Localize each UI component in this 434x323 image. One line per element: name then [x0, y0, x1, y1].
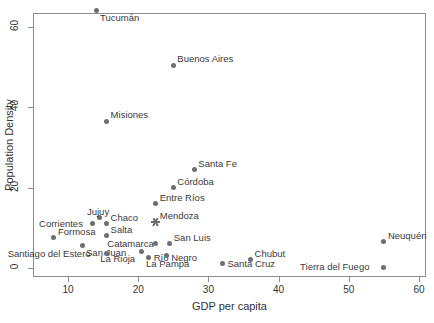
scatter-plot-figure: Population Density GDP per capita 020406… [0, 0, 434, 323]
x-tick-label: 30 [196, 284, 220, 295]
data-point-label: Córdoba [177, 177, 213, 187]
data-point-label: Santa Fe [198, 159, 237, 169]
data-point-label: Chaco [111, 213, 138, 223]
x-tick-mark [349, 277, 350, 282]
y-tick-mark [28, 268, 33, 269]
data-point-label: Misiones [111, 110, 149, 120]
x-tick-mark [279, 277, 280, 282]
data-point-marker [192, 167, 197, 172]
data-point-label: Tierra del Fuego [300, 262, 369, 272]
data-point-label: Jujuy [87, 207, 109, 217]
data-point-label: Entre Ríos [160, 193, 205, 203]
data-point-marker [171, 185, 176, 190]
x-tick-label: 60 [407, 284, 431, 295]
y-tick-mark [28, 188, 33, 189]
data-point-label: Tucumán [100, 13, 139, 23]
y-tick-label: 20 [9, 176, 20, 196]
data-point-label: San Luis [174, 233, 211, 243]
x-tick-mark [208, 277, 209, 282]
data-point-label: Santiago del Estero [8, 249, 91, 259]
data-point-marker [171, 63, 176, 68]
data-point-marker [104, 119, 109, 124]
data-point-label: Buenos Aires [177, 54, 233, 64]
y-tick-label: 60 [9, 16, 20, 36]
x-tick-label: 40 [267, 284, 291, 295]
x-tick-label: 10 [56, 284, 80, 295]
y-tick-mark [28, 107, 33, 108]
x-axis-title: GDP per capita [33, 300, 426, 312]
data-point-label: La Rioja [100, 254, 135, 264]
y-tick-label: 0 [9, 257, 20, 277]
x-tick-mark [419, 277, 420, 282]
x-tick-label: 50 [337, 284, 361, 295]
data-point-label: La Pampa [146, 259, 189, 269]
data-point-label: Santa Cruz [227, 259, 275, 269]
x-tick-mark [68, 277, 69, 282]
y-axis-title: Population Density [2, 13, 16, 277]
y-tick-mark [28, 27, 33, 28]
y-tick-label: 40 [9, 96, 20, 116]
x-tick-label: 20 [126, 284, 150, 295]
data-point-label: Mendoza [160, 211, 199, 221]
data-point-label: Salta [111, 225, 133, 235]
data-point-label: Formosa [58, 227, 95, 237]
data-point-label: Neuquén [388, 231, 427, 241]
x-tick-mark [138, 277, 139, 282]
